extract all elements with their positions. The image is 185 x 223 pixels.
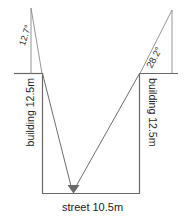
left-angle-triangle-hypotenuse <box>31 8 42 74</box>
building-label-left: building 12.5m <box>25 69 36 155</box>
left-sight-line <box>43 74 73 191</box>
geometry-diagram: 12.7° 28.2° building 12.5m building 12.5… <box>0 0 185 223</box>
street-label: street 10.5m <box>0 202 185 213</box>
building-label-right: building 12.5m <box>148 69 159 155</box>
convergence-arrowhead <box>68 185 80 194</box>
right-sight-line <box>74 74 140 191</box>
